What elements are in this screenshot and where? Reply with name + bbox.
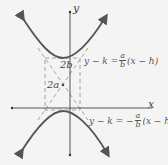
transverse-axis-label: 2a (47, 80, 59, 90)
x-axis-label: x (148, 99, 154, 110)
center-point (62, 84, 64, 86)
hyperbola-diagram: y x 2b 2a y − k = ab (x − h) y − k = − a… (0, 0, 168, 165)
y-axis-label: y (73, 3, 79, 14)
conjugate-axis-label: 2b (60, 60, 73, 70)
diagram-graphics (0, 0, 168, 165)
asymptote-positive-equation: y − k = ab (x − h) (84, 52, 158, 69)
asymptote-negative-equation: y − k = − ab (x − h) (89, 112, 168, 129)
